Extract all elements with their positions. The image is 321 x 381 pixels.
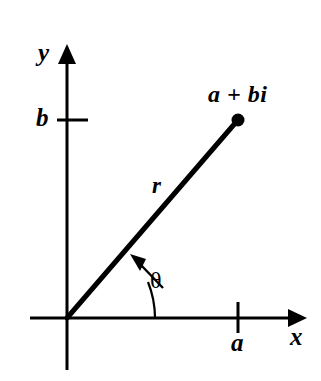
complex-plane-figure: y x b a r θ a + bi <box>0 0 321 381</box>
angle-label: θ <box>150 268 162 292</box>
a-tick-label: a <box>231 330 244 355</box>
x-axis-label: x <box>290 324 303 349</box>
y-axis-arrowhead-icon <box>58 44 76 64</box>
point-marker-a-plus-bi <box>232 114 245 127</box>
y-axis-label: y <box>38 40 49 65</box>
b-tick-label: b <box>36 105 49 130</box>
radius-label: r <box>152 174 161 197</box>
point-label: a + bi <box>208 82 267 106</box>
